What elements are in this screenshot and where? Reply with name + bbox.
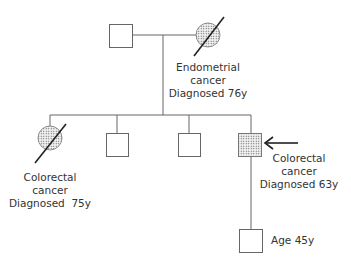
proband-arrow-icon (265, 137, 298, 149)
brother-square-2 (179, 134, 201, 157)
sibship-line (50, 115, 251, 133)
mother-label-line3: Diagnosed 76y (168, 87, 248, 100)
sister-circle-affected-deceased (35, 124, 66, 163)
father-square (110, 25, 133, 48)
brother-square-1 (107, 134, 129, 157)
proband-label: Colorectal cancer Diagnosed 63y (258, 152, 340, 191)
mother-label: Endometrial cancer Diagnosed 76y (168, 61, 248, 100)
mother-circle-affected-deceased (194, 17, 224, 56)
sister-label: Colorectal cancer Diagnosed 75y (6, 171, 94, 210)
mother-label-line1: Endometrial (168, 61, 248, 74)
sister-label-line1: Colorectal (6, 171, 94, 184)
mother-label-line2: cancer (168, 74, 248, 87)
sister-label-line3: Diagnosed 75y (6, 197, 94, 210)
pedigree-diagram (0, 0, 351, 264)
sister-label-line2: cancer (6, 184, 94, 197)
proband-label-line2: cancer (258, 165, 340, 178)
son-label: Age 45y (271, 234, 314, 247)
son-label-line1: Age 45y (271, 234, 314, 247)
proband-label-line3: Diagnosed 63y (258, 178, 340, 191)
proband-label-line1: Colorectal (258, 152, 340, 165)
son-square (240, 230, 263, 253)
